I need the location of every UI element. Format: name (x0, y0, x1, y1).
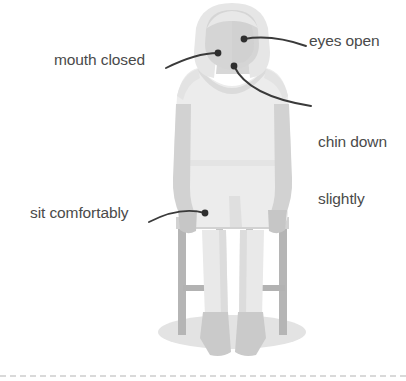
hand-left (178, 210, 197, 233)
thigh-gap-shade (229, 196, 242, 227)
callout-label-chin-down-line1: chin down (318, 132, 387, 151)
callout-label-mouth-closed: mouth closed (54, 50, 145, 69)
figure-diagram: eyes open mouth closed chin down slightl… (0, 0, 406, 381)
body (173, 3, 292, 356)
chair-leg-right (279, 227, 287, 335)
callout-label-sit-comfortably: sit comfortably (30, 203, 128, 222)
chair-leg-left (178, 227, 186, 335)
page-baseline-rule (0, 375, 406, 377)
foot-right (235, 312, 266, 356)
foot-left (200, 312, 231, 356)
waist-line (178, 160, 288, 166)
leg-right-shade (239, 230, 247, 318)
dot-chin-down (231, 63, 238, 70)
dot-eyes-open (241, 36, 248, 43)
hand-right (268, 210, 287, 233)
dot-sit-comfortably (202, 210, 209, 217)
callout-label-chin-down: chin down slightly (318, 94, 387, 246)
callout-label-eyes-open: eyes open (309, 31, 380, 50)
callout-label-chin-down-line2: slightly (318, 189, 387, 208)
dot-mouth-closed (215, 50, 222, 57)
